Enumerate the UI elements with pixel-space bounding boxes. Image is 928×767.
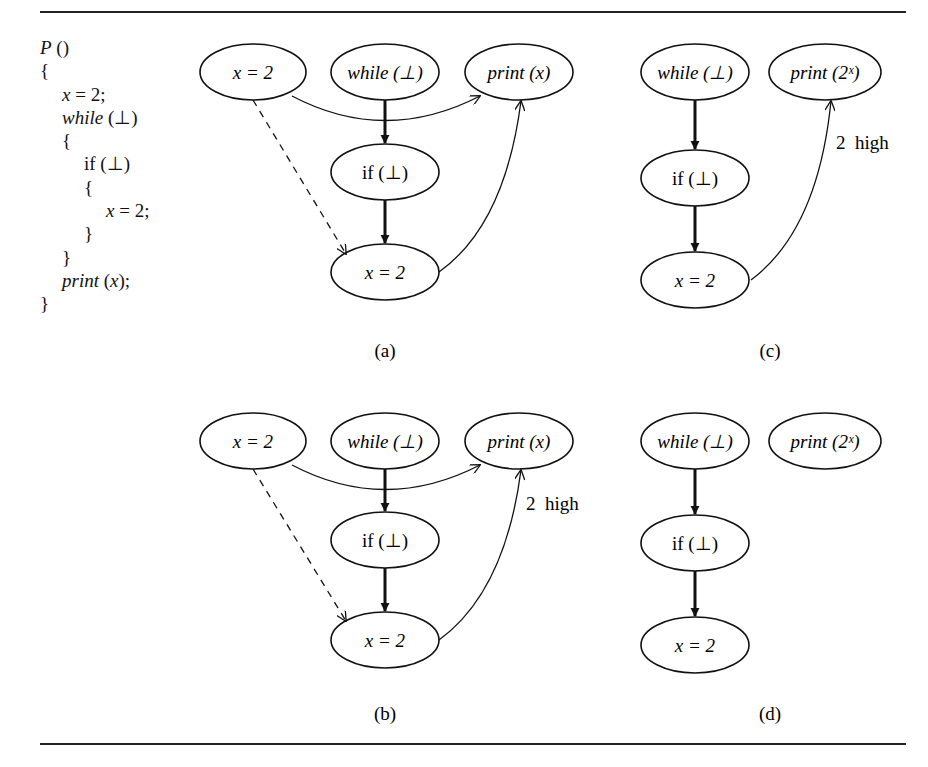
panel-c-label: (c) xyxy=(759,340,780,362)
edge-label-high: 2 high xyxy=(836,132,889,153)
node-if: if (⊥) xyxy=(641,150,749,206)
node-while: while (⊥) xyxy=(641,413,749,469)
svg-text:x = 2: x = 2 xyxy=(232,431,274,452)
node-print: print (2ˣ) xyxy=(769,44,881,100)
svg-text:while (⊥): while (⊥) xyxy=(347,62,423,84)
node-if: if (⊥) xyxy=(331,144,439,200)
dependence-graphs: x = 2 while (⊥) print (x) if (⊥) x = 2 (… xyxy=(0,0,928,767)
svg-text:x = 2: x = 2 xyxy=(674,635,716,656)
panel-b: x = 2 while (⊥) print (x) if (⊥) x = 2 2… xyxy=(200,413,579,725)
svg-text:print (2ˣ): print (2ˣ) xyxy=(788,62,859,84)
node-print: print (2ˣ) xyxy=(769,413,881,469)
panel-d-label: (d) xyxy=(759,703,781,725)
panel-b-label: (b) xyxy=(374,703,396,725)
panel-c: while (⊥) print (2ˣ) if (⊥) x = 2 2 high… xyxy=(641,44,889,362)
panel-d: while (⊥) print (2ˣ) if (⊥) x = 2 (d) xyxy=(641,413,881,725)
panel-a: x = 2 while (⊥) print (x) if (⊥) x = 2 (… xyxy=(200,44,573,362)
node-inner-assign: x = 2 xyxy=(641,252,749,308)
svg-text:print (2ˣ): print (2ˣ) xyxy=(788,431,859,453)
svg-text:while (⊥): while (⊥) xyxy=(657,431,733,453)
svg-text:x = 2: x = 2 xyxy=(364,262,406,283)
flow-edge-inner-assign-print xyxy=(439,470,521,640)
node-if: if (⊥) xyxy=(641,515,749,571)
node-if: if (⊥) xyxy=(331,512,439,568)
node-inner-assign: x = 2 xyxy=(331,612,439,668)
node-while: while (⊥) xyxy=(331,413,439,469)
node-entry-assign: x = 2 xyxy=(200,413,306,469)
svg-text:x = 2: x = 2 xyxy=(364,630,406,651)
svg-text:if (⊥): if (⊥) xyxy=(672,533,718,555)
svg-text:print (x): print (x) xyxy=(486,431,551,453)
svg-text:print (x): print (x) xyxy=(486,62,551,84)
svg-text:x = 2: x = 2 xyxy=(674,270,716,291)
svg-text:if (⊥): if (⊥) xyxy=(672,168,718,190)
svg-text:while (⊥): while (⊥) xyxy=(347,431,423,453)
svg-text:if (⊥): if (⊥) xyxy=(362,530,408,552)
node-while: while (⊥) xyxy=(641,44,749,100)
node-inner-assign: x = 2 xyxy=(641,617,749,673)
panel-a-label: (a) xyxy=(374,340,395,362)
node-print: print (x) xyxy=(465,44,573,100)
node-while: while (⊥) xyxy=(331,44,439,100)
flow-edge-inner-assign-print xyxy=(751,101,831,280)
node-print: print (x) xyxy=(465,413,573,469)
svg-text:while (⊥): while (⊥) xyxy=(657,62,733,84)
truncated-caption xyxy=(40,760,460,767)
edge-label-high: 2 high xyxy=(526,493,579,514)
svg-text:if (⊥): if (⊥) xyxy=(362,162,408,184)
bottom-rule xyxy=(40,743,906,745)
flow-edge-inner-assign-print xyxy=(439,101,521,272)
svg-text:x = 2: x = 2 xyxy=(232,62,274,83)
node-inner-assign: x = 2 xyxy=(331,244,439,300)
node-entry-assign: x = 2 xyxy=(200,44,306,100)
